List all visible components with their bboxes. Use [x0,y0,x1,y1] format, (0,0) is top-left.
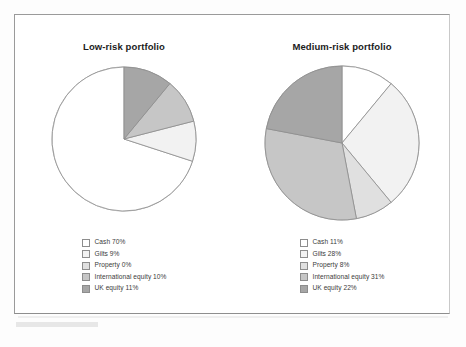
legend-swatch [300,239,308,247]
scanned-page: Low-risk portfolio Cash 70%Gilts 9%Prope… [0,0,466,347]
legend-item: Gilts 28% [300,249,385,261]
charts-row: Low-risk portfolio Cash 70%Gilts 9%Prope… [15,15,451,315]
chart-title-medium-risk: Medium-risk portfolio [233,41,451,52]
legend-label: UK equity 22% [313,285,357,292]
legend-label: International equity 10% [95,274,167,281]
legend-label: Gilts 9% [95,251,120,258]
legend-swatch [300,273,308,281]
legend-label: International equity 31% [313,274,385,281]
chart-medium-risk: Medium-risk portfolio Cash 11%Gilts 28%P… [233,15,451,315]
figure-frame: Low-risk portfolio Cash 70%Gilts 9%Prope… [14,14,450,314]
chart-low-risk: Low-risk portfolio Cash 70%Gilts 9%Prope… [15,15,233,315]
legend-item: Property 8% [300,260,385,272]
legend-item: International equity 10% [82,272,167,284]
legend-swatch [300,262,308,270]
legend-label: Property 8% [313,262,350,269]
legend-label: Cash 70% [95,239,126,246]
legend-low-risk: Cash 70%Gilts 9%Property 0%International… [15,237,233,297]
legend-item: Cash 70% [82,237,167,249]
legend-medium-risk: Cash 11%Gilts 28%Property 8%Internationa… [233,237,451,297]
legend-item: UK equity 11% [82,283,167,295]
scan-artifact-strip [16,322,98,327]
legend-item: Gilts 9% [82,249,167,261]
legend-item: International equity 31% [300,272,385,284]
legend-label: UK equity 11% [95,285,139,292]
pie-chart-medium-risk [258,59,426,227]
legend-item: UK equity 22% [300,283,385,295]
chart-title-low-risk: Low-risk portfolio [15,41,233,52]
legend-swatch [300,250,308,258]
scan-edge-line [18,316,448,318]
legend-label: Property 0% [95,262,132,269]
legend-item: Cash 11% [300,237,385,249]
legend-swatch [300,285,308,293]
legend-swatch [82,262,90,270]
legend-label: Gilts 28% [313,251,342,258]
legend-swatch [82,285,90,293]
legend-item: Property 0% [82,260,167,272]
legend-swatch [82,250,90,258]
pie-wrap-low-risk [15,59,233,219]
pie-chart-low-risk [44,59,204,219]
legend-label: Cash 11% [313,239,343,246]
legend-swatch [82,273,90,281]
legend-swatch [82,239,90,247]
pie-wrap-medium-risk [233,59,451,219]
